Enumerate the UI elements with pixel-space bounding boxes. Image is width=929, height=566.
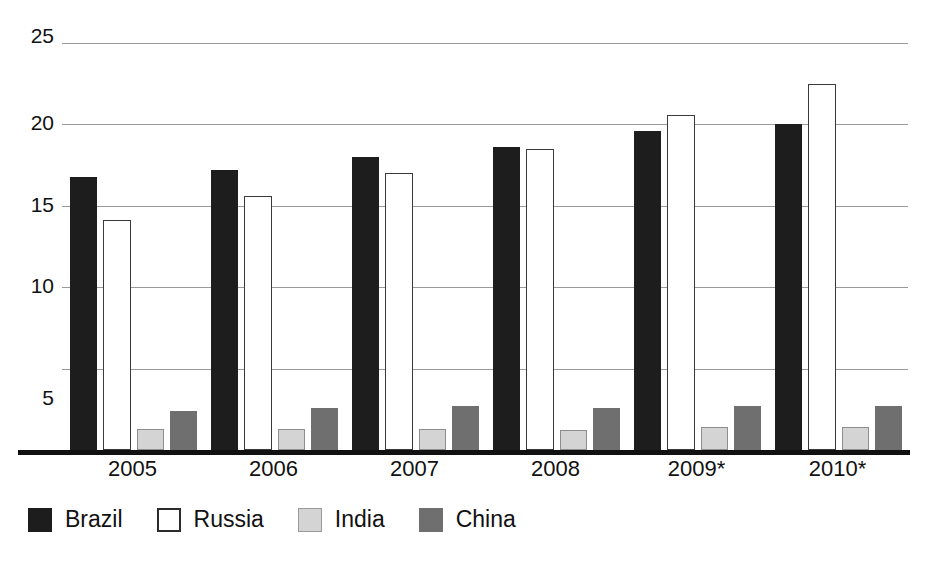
legend-label: Brazil [65,506,123,533]
bar-group [626,0,767,450]
legend-item-india[interactable]: India [298,506,385,533]
bar-india-2007[interactable] [419,429,446,450]
legend-swatch-russia [157,508,181,532]
bar-brazil-2006[interactable] [211,170,238,450]
x-tick-label: 2005 [62,456,203,482]
bar-china-2008[interactable] [593,408,620,450]
bar-china-2005[interactable] [170,411,197,450]
bar-group [62,0,203,450]
chart-legend: BrazilRussiaIndiaChina [28,506,550,533]
bar-brazil-2007[interactable] [352,157,379,450]
bar-group [344,0,485,450]
legend-item-china[interactable]: China [419,506,516,533]
y-tick-label: 15 [20,194,54,215]
y-tick-label: 5 [20,387,54,408]
bar-brazil-2010[interactable] [775,124,802,450]
bar-brazil-2005[interactable] [70,177,97,451]
bar-china-2006[interactable] [311,408,338,450]
bar-india-2005[interactable] [137,429,164,450]
legend-item-russia[interactable]: Russia [157,506,264,533]
bar-china-2009[interactable] [734,406,761,450]
bar-china-2010[interactable] [875,406,902,450]
x-tick-label: 2007 [344,456,485,482]
x-tick-label: 2010* [767,456,908,482]
bar-group [767,0,908,450]
legend-label: Russia [194,506,264,533]
bar-group-bars [344,0,485,450]
bar-india-2010[interactable] [842,427,869,450]
legend-swatch-india [298,508,322,532]
bar-group-bars [626,0,767,450]
y-tick-label: 25 [20,25,54,46]
legend-label: China [456,506,516,533]
x-tick-label: 2009* [626,456,767,482]
bar-group-bars [767,0,908,450]
bar-india-2008[interactable] [560,430,587,450]
bar-russia-2007[interactable] [385,173,412,450]
bar-russia-2005[interactable] [103,220,130,450]
bar-china-2007[interactable] [452,406,479,450]
bar-russia-2009[interactable] [667,115,694,450]
y-tick-label: 10 [20,275,54,296]
bar-brazil-2009[interactable] [634,131,661,450]
bar-india-2009[interactable] [701,427,728,450]
bar-group-bars [62,0,203,450]
bar-india-2006[interactable] [278,429,305,450]
y-tick-label: 20 [20,112,54,133]
bar-brazil-2008[interactable] [493,147,520,450]
bar-chart: 510152025 20052006200720082009*2010* Bra… [0,0,929,566]
x-axis-baseline [18,450,910,455]
x-axis-labels: 20052006200720082009*2010* [62,456,908,482]
x-tick-label: 2008 [485,456,626,482]
bar-group [203,0,344,450]
bar-groups [62,0,908,450]
bar-group-bars [485,0,626,450]
legend-swatch-brazil [28,508,52,532]
bar-russia-2010[interactable] [808,84,835,450]
bar-russia-2008[interactable] [526,149,553,450]
bar-russia-2006[interactable] [244,196,271,450]
x-tick-label: 2006 [203,456,344,482]
bar-group [485,0,626,450]
bar-group-bars [203,0,344,450]
legend-label: India [335,506,385,533]
legend-swatch-china [419,508,443,532]
legend-item-brazil[interactable]: Brazil [28,506,123,533]
